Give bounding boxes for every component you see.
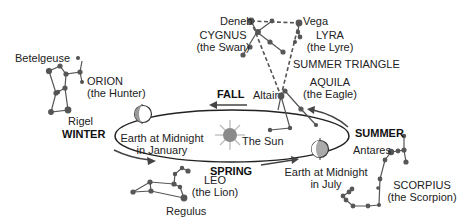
orion-constellation	[47, 57, 84, 115]
constellation-subtitle-lyra: (the Lyre)	[300, 41, 360, 53]
earth-january-label: Earth at Midnight in January	[116, 132, 208, 156]
diagram-canvas: Betelgeuse ORION (the Hunter) Rigel WINT…	[0, 0, 463, 222]
constellation-label-scorpius: SCORPIUS (the Scorpion)	[382, 179, 462, 203]
constellation-name-orion: ORION	[87, 75, 123, 87]
season-label-winter: WINTER	[62, 128, 105, 140]
constellation-subtitle-leo: (the Lion)	[185, 186, 245, 198]
constellation-subtitle-orion: (the Hunter)	[87, 87, 146, 99]
star-label-antares: Antares	[353, 144, 391, 156]
asterism-label-summer-triangle: SUMMER TRIANGLE	[293, 58, 400, 70]
earth-january-line1: Earth at Midnight	[116, 132, 208, 144]
sun-label: The Sun	[242, 135, 284, 147]
fall-arrow	[209, 101, 247, 109]
sun-icon	[215, 120, 245, 150]
earth-july-line2: in July	[280, 178, 372, 190]
star-label-rigel: Rigel	[68, 115, 93, 127]
constellation-label-cygnus: CYGNUS (the Swan)	[193, 29, 253, 53]
constellation-name-lyra: LYRA	[300, 29, 360, 41]
constellation-label-aquila: AQUILA (the Eagle)	[295, 76, 365, 100]
star-label-altair: Altair	[253, 89, 278, 101]
constellation-subtitle-scorpius: (the Scorpion)	[382, 191, 462, 203]
season-label-fall: FALL	[217, 88, 245, 100]
constellation-name-scorpius: SCORPIUS	[382, 179, 462, 191]
earth-july-line1: Earth at Midnight	[280, 166, 372, 178]
earth-january-line2: in January	[116, 144, 208, 156]
constellation-label-leo: LEO (the Lion)	[185, 174, 245, 198]
constellation-name-aquila: AQUILA	[295, 76, 365, 88]
constellation-label-lyra: LYRA (the Lyre)	[300, 29, 360, 53]
earth-july-icon	[312, 138, 329, 160]
constellation-subtitle-aquila: (the Eagle)	[295, 88, 365, 100]
summer-arrow	[307, 106, 348, 127]
earth-july-label: Earth at Midnight in July	[280, 166, 372, 190]
constellation-name-cygnus: CYGNUS	[193, 29, 253, 41]
star-label-deneb: Deneb	[220, 15, 252, 27]
season-label-summer: SUMMER	[355, 127, 404, 139]
star-label-regulus: Regulus	[166, 205, 206, 217]
constellation-name-leo: LEO	[185, 174, 245, 186]
star-label-vega: Vega	[303, 15, 328, 27]
leo-constellation	[131, 166, 190, 200]
constellation-subtitle-cygnus: (the Swan)	[193, 41, 253, 53]
star-label-betelgeuse: Betelgeuse	[15, 52, 70, 64]
